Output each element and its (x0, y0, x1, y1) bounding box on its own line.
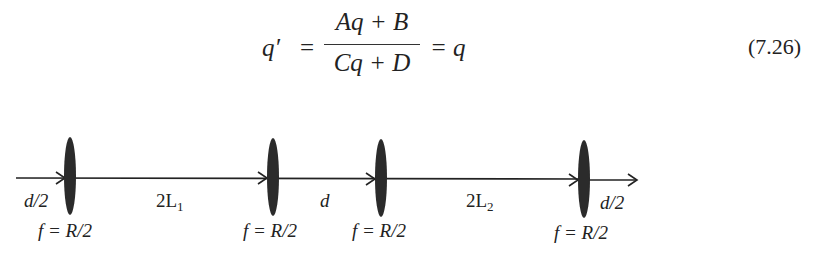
denominator: Cq + D (322, 49, 422, 77)
fraction-bar (324, 44, 420, 45)
optical-path-svg (0, 120, 821, 269)
segment-label: d (320, 190, 330, 212)
beam-line (16, 178, 584, 179)
equation-lhs: q′ (262, 34, 280, 62)
equation-rhs: = q (430, 34, 466, 62)
equation-number: (7.26) (748, 34, 801, 60)
equation: q′ = Aq + B Cq + D = q (7.26) (0, 0, 821, 100)
segment-label: d/2 (24, 190, 48, 212)
segment-label: 2L2 (466, 190, 494, 215)
resonator-diagram: d/2 2L1 d 2L2 d/2 f = R/2 f = R/2 f = R/… (0, 120, 821, 269)
segment-label: d/2 (600, 192, 624, 214)
arrowhead-icon (569, 174, 578, 186)
lens-label: f = R/2 (243, 220, 297, 242)
lens-label: f = R/2 (38, 220, 92, 242)
equals-sign: = (300, 34, 314, 62)
lens-icon (375, 139, 387, 217)
lens-icon (64, 137, 76, 215)
lens-icon (267, 138, 279, 216)
lens-label: f = R/2 (352, 220, 406, 242)
lens-icon (578, 140, 590, 218)
numerator: Aq + B (322, 8, 422, 40)
fraction: Aq + B Cq + D (322, 8, 422, 77)
segment-label: 2L1 (156, 190, 184, 215)
lens-label: f = R/2 (554, 222, 608, 244)
